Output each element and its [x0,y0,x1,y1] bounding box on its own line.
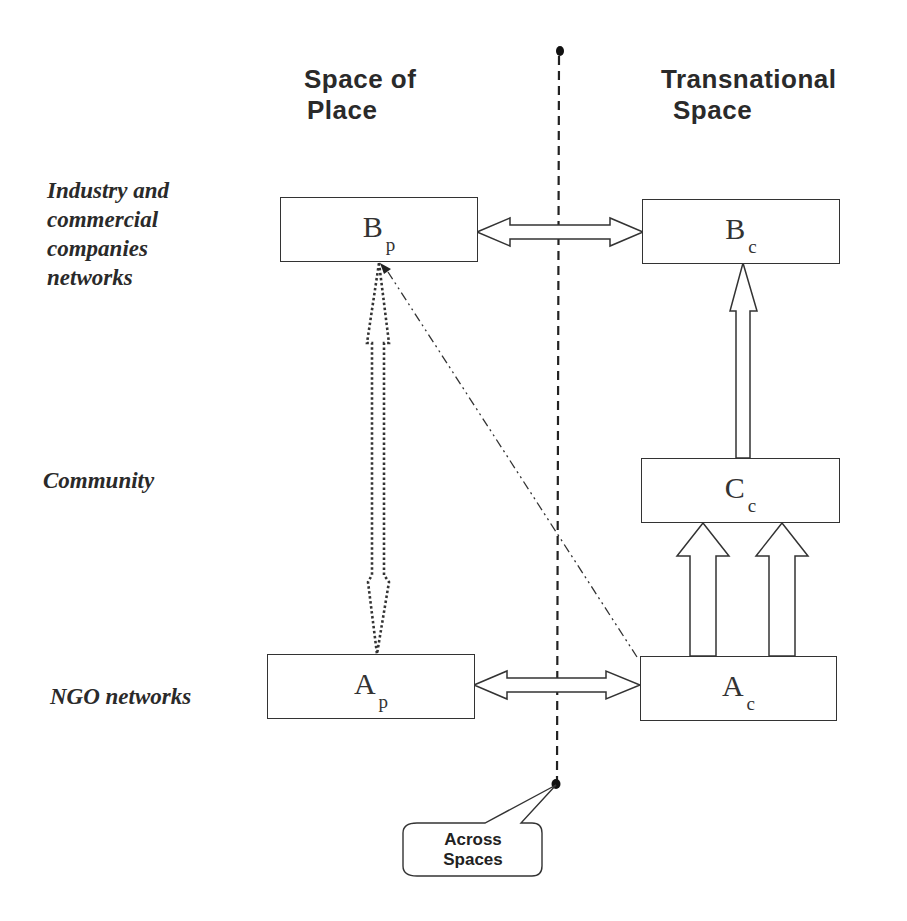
diagram-canvas: Space of Place Transnational Space Indus… [0,0,907,921]
column-header-line: Transnational [661,64,837,95]
node-label: Bc [643,212,839,264]
node-subscript: c [748,236,756,257]
callout-line: Across [403,830,543,850]
ac-bp-dashdot-line [388,272,637,657]
ap-bp-dotted-double-arrow-icon [367,263,389,654]
ac-cc-arrow-left-icon [677,523,729,656]
row-label-line: networks [47,263,169,292]
node-ac: Ac [640,656,837,721]
row-label-community: Community [43,466,154,495]
node-main-letter: C [725,471,745,504]
column-header-line: Place [304,95,416,126]
ac-cc-arrow-right-icon [756,523,808,656]
cc-bc-arrow-icon [730,263,757,458]
node-main-letter: B [363,210,383,243]
column-header-space-of-place: Space of Place [304,64,416,126]
row-label-line: NGO networks [50,682,191,711]
node-label: Bp [281,210,477,262]
node-subscript: c [747,693,755,714]
column-header-line: Space [661,95,837,126]
row-label-ngo: NGO networks [50,682,191,711]
node-main-letter: B [725,212,745,245]
node-bp: Bp [280,197,478,262]
node-subscript: p [379,691,389,712]
column-header-line: Space of [304,64,416,95]
node-main-letter: A [722,669,744,702]
bp-bc-double-arrow-icon [477,218,643,246]
node-label: Ac [641,669,836,721]
node-label: Cc [642,471,839,523]
divider-top-dot-icon [556,46,564,56]
callout-line: Spaces [403,850,543,870]
node-subscript: p [386,234,396,255]
node-label: Ap [268,667,474,719]
ac-bp-arrowhead-icon [380,263,391,274]
node-subscript: c [748,495,756,516]
node-cc: Cc [641,458,840,523]
node-main-letter: A [354,667,376,700]
row-label-line: companies [47,234,169,263]
node-bc: Bc [642,199,840,264]
row-label-line: commercial [47,205,169,234]
node-ap: Ap [267,654,475,719]
row-label-line: Community [43,466,154,495]
column-header-transnational-space: Transnational Space [661,64,837,126]
across-spaces-callout: Across Spaces [403,830,543,870]
row-label-line: Industry and [47,176,169,205]
row-label-industry: Industry and commercial companies networ… [47,176,169,292]
